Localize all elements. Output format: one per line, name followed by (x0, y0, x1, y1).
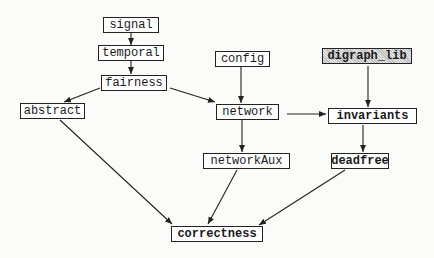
node-signal: signal (103, 17, 159, 33)
edges-layer (0, 0, 434, 258)
node-digraph-lib: digraph_lib (322, 48, 412, 64)
edge-fairness-network (170, 88, 215, 102)
node-temporal: temporal (98, 45, 164, 61)
node-network: network (216, 104, 279, 120)
edge-fairness-abstract (64, 88, 100, 102)
edge-networkaux-correctness (208, 170, 237, 224)
edge-abstract-correctness (60, 120, 172, 224)
node-networkaux: networkAux (203, 153, 290, 169)
node-deadfree: deadfree (331, 153, 389, 169)
node-correctness: correctness (171, 226, 263, 242)
node-abstract: abstract (20, 103, 85, 119)
edge-deadfree-correctness (259, 170, 345, 225)
dependency-diagram: signal temporal fairness abstract config… (0, 0, 434, 258)
node-invariants: invariants (328, 108, 417, 124)
node-fairness: fairness (101, 75, 167, 91)
node-config: config (215, 51, 270, 67)
